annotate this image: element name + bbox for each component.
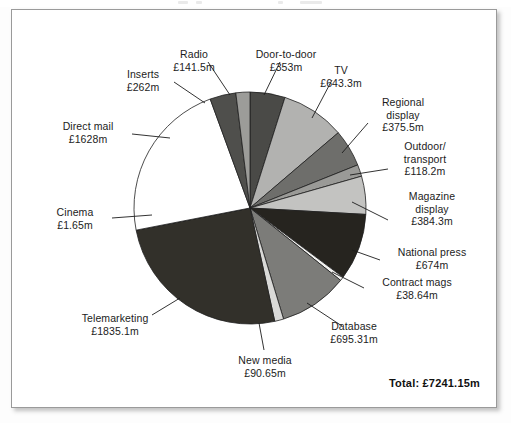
callout-radio-value: £141.5m [173, 61, 215, 73]
callout-database-value: £695.31m [330, 333, 378, 345]
callout-radio-name: Radio [180, 48, 208, 60]
callout-outdoor-name: Outdoor/ [404, 140, 446, 152]
figure-frame: Radio£141.5m Door-to-door£353m TV£643.3m… [11, 9, 497, 408]
callout-regional-display: Regionaldisplay£375.5m [362, 96, 444, 134]
callout-new-media-name: New media [238, 354, 291, 366]
callout-national-value: £674m [416, 259, 449, 271]
callout-cinema-value: £1.65m [57, 219, 93, 231]
callout-telemarketing: Telemarketing£1835.1m [62, 312, 168, 337]
leader-line-new-media [259, 323, 264, 350]
callout-outdoor-transport: Outdoor/transport£118.2m [384, 140, 466, 178]
callout-inserts-name: Inserts [127, 68, 159, 80]
callout-direct-mail-value: £1628m [69, 133, 108, 145]
callout-regional-name2: display [386, 109, 419, 121]
callout-magazine-value: £384.3m [411, 215, 453, 227]
callout-inserts: Inserts£262m [108, 68, 178, 93]
total-label: Total: £7241.15m [389, 377, 480, 389]
callout-national-name: National press [398, 246, 467, 258]
pie-slice-group [134, 92, 366, 324]
callout-direct-mail-name: Direct mail [63, 120, 114, 132]
callout-contract-mags: Contract mags£38.64m [364, 276, 470, 301]
callout-direct-mail: Direct mail£1628m [46, 120, 130, 145]
leader-line-inserts [174, 82, 205, 103]
callout-regional-name: Regional [382, 96, 424, 108]
callout-tv: TV£643.3m [308, 64, 374, 89]
callout-outdoor-name2: transport [404, 153, 446, 165]
pie-chart: Radio£141.5m Door-to-door£353m TV£643.3m… [12, 10, 498, 409]
callout-regional-value: £375.5m [382, 121, 424, 133]
callout-contract-value: £38.64m [396, 289, 438, 301]
callout-national-press: National press£674m [380, 246, 484, 271]
callout-outdoor-value: £118.2m [405, 165, 446, 177]
callout-door-to-door-name: Door-to-door [256, 48, 317, 60]
callout-tv-name: TV [334, 64, 348, 76]
callout-database: Database£695.31m [312, 320, 396, 345]
callout-tv-value: £643.3m [320, 77, 362, 89]
callout-door-to-door-value: £353m [270, 61, 303, 73]
callout-magazine-name: Magazine [409, 190, 455, 202]
callout-magazine-name2: display [415, 203, 448, 215]
callout-telemarketing-name: Telemarketing [82, 312, 149, 324]
callout-database-name: Database [331, 320, 377, 332]
callout-inserts-value: £262m [127, 81, 160, 93]
callout-cinema: Cinema£1.65m [40, 206, 110, 231]
scan-artefact-strip [0, 0, 511, 7]
callout-cinema-name: Cinema [57, 206, 94, 218]
callout-telemarketing-value: £1835.1m [91, 325, 139, 337]
callout-contract-name: Contract mags [382, 276, 452, 288]
callout-magazine-display: Magazinedisplay£384.3m [390, 190, 474, 228]
callout-new-media-value: £90.65m [244, 367, 286, 379]
figure-page: Radio£141.5m Door-to-door£353m TV£643.3m… [0, 0, 511, 423]
callout-new-media: New media£90.65m [222, 354, 308, 379]
